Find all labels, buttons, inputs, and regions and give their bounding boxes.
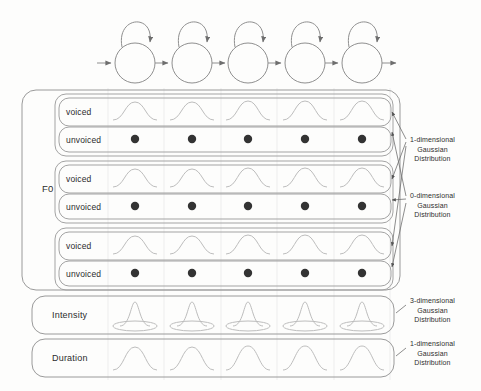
f0-stream-3-voiced-curves bbox=[113, 235, 384, 254]
f0-stream-1-box bbox=[55, 94, 393, 156]
annotation-intensity-3d-line2: Gaussian bbox=[410, 306, 455, 316]
f0-stream-2-box bbox=[55, 161, 393, 223]
f0-stream-3-box bbox=[55, 228, 393, 290]
annotation-voiced-1d-line1: 1-dimensional bbox=[410, 135, 455, 145]
f0-stream-1-voiced-label: voiced bbox=[66, 107, 91, 117]
annotation-voiced-1d: 1-dimensional Gaussian Distribution bbox=[410, 135, 455, 164]
annotation-intensity-3d: 3-dimensional Gaussian Distribution bbox=[410, 296, 455, 325]
annotation-duration-1d: 1-dimensional Gaussian Distribution bbox=[410, 339, 455, 368]
f0-stream-1-voiced-curves bbox=[113, 101, 384, 120]
annotation-unvoiced-0d-line3: Distribution bbox=[410, 210, 455, 220]
duration-gaussian-curves bbox=[113, 346, 384, 370]
duration-label: Duration bbox=[52, 353, 88, 363]
annotation-intensity-3d-line3: Distribution bbox=[410, 315, 455, 325]
leader-duration bbox=[396, 348, 406, 356]
f0-stream-2-voiced-curves bbox=[113, 168, 384, 187]
annotation-duration-1d-line3: Distribution bbox=[410, 358, 455, 368]
f0-stream-2-unvoiced-row bbox=[59, 194, 391, 219]
intensity-label: Intensity bbox=[52, 310, 87, 320]
f0-stream-1-voiced-row bbox=[59, 98, 391, 126]
annotation-unvoiced-0d: 0-dimensional Gaussian Distribution bbox=[410, 191, 455, 220]
annotation-voiced-1d-line2: Gaussian bbox=[410, 145, 455, 155]
f0-stream-2-voiced-label: voiced bbox=[66, 174, 91, 184]
f0-stream-2-unvoiced-label: unvoiced bbox=[66, 202, 101, 212]
annotation-unvoiced-0d-line1: 0-dimensional bbox=[410, 191, 455, 201]
leader-unvoiced-1 bbox=[392, 132, 406, 196]
f0-stream-3-voiced-label: voiced bbox=[66, 241, 91, 251]
intensity-gaussian-3d-glyphs bbox=[113, 302, 384, 331]
diagram-canvas: F0 voiced unvoiced voiced unvoiced voice… bbox=[0, 0, 481, 391]
annotation-voiced-1d-line3: Distribution bbox=[410, 154, 455, 164]
leader-unvoiced-3 bbox=[392, 203, 406, 267]
f0-stream-3-voiced-row bbox=[59, 232, 391, 260]
leader-unvoiced-2 bbox=[392, 199, 406, 200]
f0-stream-1-unvoiced-dots bbox=[131, 135, 366, 143]
annotation-intensity-3d-line1: 3-dimensional bbox=[410, 296, 455, 306]
f0-stream-2-voiced-row bbox=[59, 165, 391, 193]
f0-label: F0 bbox=[42, 183, 54, 194]
f0-stream-2-unvoiced-dots bbox=[131, 202, 366, 210]
annotation-unvoiced-0d-line2: Gaussian bbox=[410, 201, 455, 211]
f0-stream-1-unvoiced-label: unvoiced bbox=[66, 135, 101, 145]
annotation-duration-1d-line2: Gaussian bbox=[410, 349, 455, 359]
leader-voiced-1 bbox=[392, 112, 406, 139]
f0-stream-3-unvoiced-row bbox=[59, 261, 391, 286]
leader-intensity bbox=[396, 305, 406, 313]
streams-layer bbox=[0, 0, 481, 391]
f0-stream-1-unvoiced-row bbox=[59, 127, 391, 152]
f0-stream-3-unvoiced-dots bbox=[131, 269, 366, 277]
annotation-duration-1d-line1: 1-dimensional bbox=[410, 339, 455, 349]
f0-stream-3-unvoiced-label: unvoiced bbox=[66, 269, 101, 279]
